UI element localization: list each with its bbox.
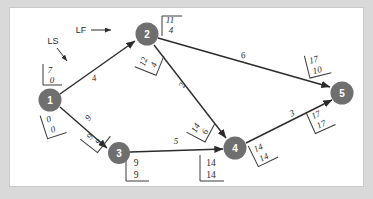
node-2-label: 2 bbox=[144, 29, 150, 40]
bracket-node5-activity-2-5: 17 10 bbox=[304, 50, 331, 78]
ls-annotation-arrow bbox=[57, 48, 67, 61]
edge-4-5-duration: 3 bbox=[287, 107, 297, 119]
node-3-label: 3 bbox=[116, 148, 122, 159]
bracket-node2-bottom: 4 bbox=[169, 25, 174, 35]
bracket-node1-start-ls-lf: 7 0 bbox=[43, 64, 62, 85]
page-background: 4 9 6 2 5 3 bbox=[0, 0, 373, 199]
node-4-label: 4 bbox=[232, 143, 238, 154]
bracket-node4-activity-4-5: 14 14 bbox=[248, 136, 278, 166]
edge-2-5: 6 bbox=[158, 38, 330, 87]
bracket-node2-activity-2-4-bottom: 4 bbox=[148, 60, 159, 68]
ls-annotation-label: LS bbox=[47, 36, 58, 46]
node-4[interactable]: 4 bbox=[224, 137, 247, 160]
network-diagram: 4 9 6 2 5 3 bbox=[10, 8, 364, 187]
bracket-node2-top: 11 bbox=[166, 15, 174, 25]
node-1-label: 1 bbox=[47, 95, 53, 106]
bracket-node1-es-top: 0 bbox=[45, 114, 53, 125]
bracket-node4-upper-bottom: 6 bbox=[199, 127, 210, 136]
edge-3-4-line bbox=[130, 149, 223, 152]
bracket-node1-ls-top: 7 bbox=[48, 65, 53, 75]
bracket-node3-bottom: 9 bbox=[93, 137, 104, 147]
edge-1-2: 4 bbox=[60, 41, 135, 94]
node-1[interactable]: 1 bbox=[39, 89, 62, 112]
edge-2-5-duration: 6 bbox=[240, 50, 247, 61]
bracket-node2-activity-1-2: 11 4 bbox=[162, 15, 182, 36]
bracket-node3-bottom-top: 9 bbox=[134, 158, 139, 168]
edge-2-5-line bbox=[158, 38, 330, 87]
bracket-node3-activity-1-3: 9 9 bbox=[80, 123, 110, 153]
bracket-node3-bottom: 9 9 bbox=[126, 155, 149, 181]
bracket-node1-ls-bottom: 0 bbox=[50, 75, 55, 85]
bracket-node5-upper-bottom: 10 bbox=[312, 64, 324, 76]
edge-3-4: 5 bbox=[130, 136, 223, 152]
edge-1-3-duration: 9 bbox=[83, 113, 94, 123]
edge-1-2-duration: 4 bbox=[91, 73, 98, 84]
bracket-node1-es-bottom: 0 bbox=[49, 124, 57, 135]
bracket-node4-bottom-top: 14 bbox=[206, 158, 216, 168]
bracket-node1-start-es-ef: 0 0 bbox=[40, 110, 66, 139]
ls-annotation-group: LS bbox=[47, 36, 67, 61]
node-5-label: 5 bbox=[339, 88, 345, 99]
edge-2-4-line bbox=[154, 45, 226, 138]
edge-3-4-duration: 5 bbox=[174, 136, 179, 146]
node-3[interactable]: 3 bbox=[108, 142, 130, 164]
bracket-node4-bottom-bottom: 14 bbox=[206, 170, 216, 180]
lf-annotation-label: LF bbox=[76, 25, 87, 35]
edge-2-4: 2 bbox=[154, 45, 226, 138]
node-2[interactable]: 2 bbox=[136, 23, 159, 46]
lf-annotation-group: LF bbox=[76, 25, 111, 35]
diagram-canvas: 4 9 6 2 5 3 bbox=[9, 7, 364, 187]
bracket-node3-bottom-bottom: 9 bbox=[134, 170, 139, 180]
bracket-node5-activity-4-5: 17 17 bbox=[306, 104, 335, 134]
node-5[interactable]: 5 bbox=[331, 82, 354, 105]
bracket-node4-bottom: 14 14 bbox=[200, 155, 224, 181]
edge-1-2-line bbox=[60, 41, 135, 94]
